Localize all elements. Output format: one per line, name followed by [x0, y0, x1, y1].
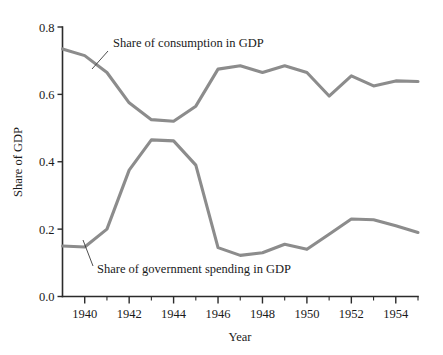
- x-tick-label: 1954: [383, 307, 409, 321]
- y-tick-label: 0.0: [39, 290, 55, 304]
- y-axis-title: Share of GDP: [11, 127, 25, 197]
- x-axis-tick-labels: 19401942194419461948195019521954: [72, 307, 409, 321]
- x-axis-ticks: [85, 297, 418, 304]
- x-tick-label: 1946: [206, 307, 231, 321]
- y-tick-label: 0.4: [39, 155, 55, 169]
- series-line: [63, 49, 419, 121]
- x-tick-label: 1940: [72, 307, 97, 321]
- series-line: [63, 140, 419, 256]
- y-tick-label: 0.8: [39, 21, 55, 35]
- y-tick-label: 0.2: [39, 223, 55, 237]
- series-annotation-label: Share of government spending in GDP: [97, 262, 291, 276]
- y-axis-tick-labels: 0.00.20.40.60.8: [39, 21, 55, 305]
- y-tick-label: 0.6: [39, 88, 55, 102]
- x-tick-label: 1944: [161, 307, 187, 321]
- chart-figure: 0.00.20.40.60.8 194019421944194619481950…: [0, 0, 443, 355]
- line-chart: 0.00.20.40.60.8 194019421944194619481950…: [0, 0, 443, 355]
- x-tick-label: 1950: [294, 307, 319, 321]
- x-tick-label: 1952: [339, 307, 364, 321]
- x-tick-label: 1942: [117, 307, 142, 321]
- series-annotation-label: Share of consumption in GDP: [113, 36, 264, 50]
- data-series-group: [63, 49, 419, 256]
- x-axis-title: Year: [228, 330, 252, 344]
- x-tick-label: 1948: [250, 307, 275, 321]
